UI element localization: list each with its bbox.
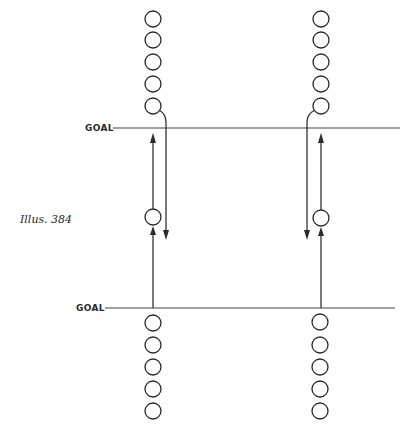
player-circle-middle [313,210,329,226]
player-circle [313,54,329,70]
player-circle [145,11,161,27]
player-circle [312,337,328,353]
player-circle [145,315,161,331]
upper-goal-label: GOAL [85,123,114,133]
left-column [145,11,169,419]
player-circle [312,359,328,375]
player-circle [145,381,161,397]
illustration-caption: Illus. 384 [19,213,72,226]
down-arrowhead-icon [163,230,169,240]
lower-goal: GOAL [76,303,395,313]
player-circle [312,381,328,397]
player-circle [312,403,328,419]
up-arrowhead-icon [318,227,324,236]
lower-goal-label: GOAL [76,303,105,313]
player-circle [145,337,161,353]
player-circle [145,54,161,70]
down-arrowhead-icon [304,230,310,240]
player-circle [312,314,328,330]
right-column [304,11,329,419]
player-circle [313,32,329,48]
up-arrowhead-icon [318,133,324,143]
player-circle [145,32,161,48]
goal-play-diagram: Illus. 384 GOAL GOAL [0,0,408,435]
player-circle [313,11,329,27]
upper-goal: GOAL [85,123,400,133]
player-circle [313,76,329,92]
player-circle [145,76,161,92]
player-circle [145,98,161,114]
player-circle [145,359,161,375]
up-arrowhead-icon [150,133,156,143]
player-circle [145,403,161,419]
player-circle [313,98,329,114]
player-circle-middle [145,209,161,225]
up-arrowhead-icon [150,226,156,235]
